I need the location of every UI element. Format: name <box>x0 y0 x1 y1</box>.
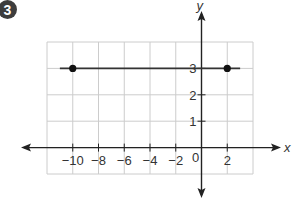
coordinate-plane: −10−8−6−4−202123 x y <box>0 0 292 198</box>
axes <box>21 11 281 198</box>
y-tick-label: 1 <box>189 114 196 129</box>
x-tick-label: −4 <box>143 153 158 168</box>
x-tick-label: 2 <box>224 153 231 168</box>
x-tick-label: −2 <box>168 153 183 168</box>
y-tick-label: 2 <box>189 88 196 103</box>
ticks: −10−8−6−4−202123 <box>62 61 231 167</box>
data-point <box>69 65 76 72</box>
x-tick-label: 0 <box>192 150 199 165</box>
x-axis-label: x <box>283 140 291 155</box>
x-tick-label: −10 <box>62 153 84 168</box>
x-tick-label: −8 <box>91 153 106 168</box>
x-tick-label: −6 <box>117 153 132 168</box>
y-axis-label: y <box>196 0 205 13</box>
data-point <box>224 65 231 72</box>
